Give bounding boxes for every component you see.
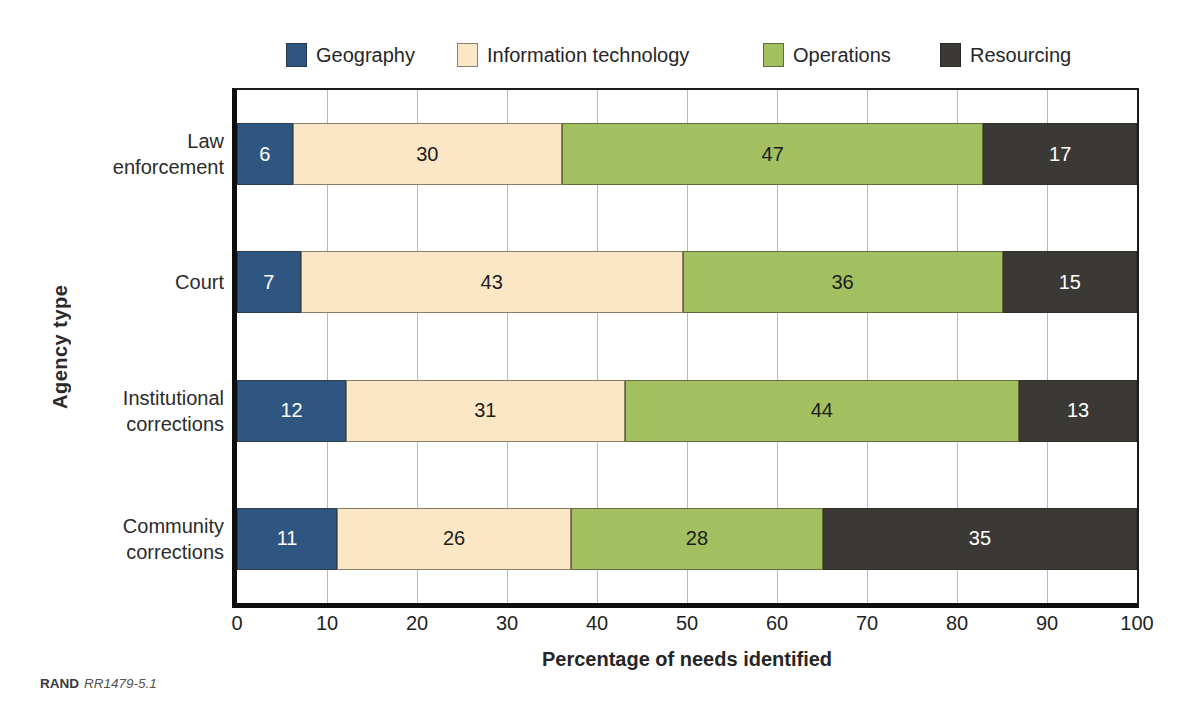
bar-track: 7433615 [237,251,1137,313]
x-tick-label-30: 30 [496,612,518,635]
bar-segment-operations: 28 [571,508,823,570]
bar-segment-operations: 36 [683,251,1003,313]
legend-label: Resourcing [970,44,1071,67]
legend-item-operations: Operations [763,40,891,70]
bar-segment-geography: 11 [237,508,337,570]
x-tick-label-90: 90 [1036,612,1058,635]
x-axis-ticks: 0102030405060708090100 [237,612,1137,638]
legend: GeographyInformation technologyOperation… [0,40,1188,70]
bar-segment-information-technology: 43 [301,251,683,313]
legend-label: Geography [316,44,415,67]
plot-inner: 630471774336151231441311262835 [237,90,1137,603]
x-tick-label-10: 10 [316,612,338,635]
bar-row-law-enforcement: 6304717 [237,90,1137,218]
legend-item-geography: Geography [286,40,415,70]
x-tick-label-80: 80 [946,612,968,635]
bar-value-label: 43 [481,271,503,294]
bar-track: 11262835 [237,508,1137,570]
x-tick-label-20: 20 [406,612,428,635]
bar-track: 6304717 [237,123,1137,185]
bar-value-label: 13 [1067,399,1089,422]
x-tick-label-60: 60 [766,612,788,635]
bar-value-label: 6 [259,143,270,166]
x-tick-label-50: 50 [676,612,698,635]
bar-segment-geography: 12 [237,380,346,442]
bar-value-label: 12 [280,399,302,422]
bar-value-label: 11 [277,527,298,550]
bar-value-label: 17 [1049,143,1071,166]
bar-value-label: 36 [831,271,853,294]
bar-value-label: 44 [811,399,833,422]
bar-segment-operations: 47 [562,123,983,185]
legend-swatch-geography [286,43,307,67]
category-label-institutional-corrections: Institutional corrections [0,347,224,475]
legend-label: Information technology [487,44,689,67]
plot-area: 630471774336151231441311262835 [232,88,1139,608]
legend-item-information-technology: Information technology [457,40,689,70]
bar-segment-information-technology: 30 [293,123,563,185]
x-tick-label-0: 0 [231,612,242,635]
bar-row-court: 7433615 [237,218,1137,346]
source-note: RANDRR1479-5.1 [40,676,157,691]
bar-value-label: 31 [474,399,496,422]
bar-rows: 630471774336151231441311262835 [237,90,1137,603]
bar-track: 12314413 [237,380,1137,442]
x-tick-label-40: 40 [586,612,608,635]
legend-swatch-resourcing [940,43,961,67]
legend-swatch-information-technology [457,43,478,67]
source-id: RR1479-5.1 [84,676,157,691]
bar-segment-resourcing: 15 [1003,251,1137,313]
source-brand: RAND [40,676,79,691]
legend-item-resourcing: Resourcing [940,40,1071,70]
bar-value-label: 15 [1059,271,1081,294]
bar-row-institutional-corrections: 12314413 [237,347,1137,475]
bar-row-community-corrections: 11262835 [237,475,1137,603]
bar-value-label: 35 [969,527,991,550]
bar-segment-resourcing: 13 [1019,380,1137,442]
bar-segment-information-technology: 26 [337,508,571,570]
bar-segment-operations: 44 [625,380,1019,442]
category-labels: Law enforcementCourtInstitutional correc… [0,90,224,603]
x-axis-title: Percentage of needs identified [237,648,1137,671]
bar-segment-resourcing: 35 [823,508,1137,570]
bar-value-label: 26 [443,527,465,550]
figure: GeographyInformation technologyOperation… [0,0,1188,712]
bar-value-label: 7 [263,271,274,294]
legend-label: Operations [793,44,891,67]
bar-segment-resourcing: 17 [983,123,1137,185]
category-label-court: Court [0,218,224,346]
bar-segment-geography: 6 [237,123,293,185]
x-tick-label-100: 100 [1120,612,1153,635]
category-label-law-enforcement: Law enforcement [0,90,224,218]
bar-segment-geography: 7 [237,251,301,313]
bar-value-label: 28 [686,527,708,550]
bar-value-label: 30 [416,143,438,166]
bar-value-label: 47 [762,143,784,166]
bar-segment-information-technology: 31 [346,380,625,442]
x-tick-label-70: 70 [856,612,878,635]
category-label-community-corrections: Community corrections [0,475,224,603]
legend-swatch-operations [763,43,784,67]
